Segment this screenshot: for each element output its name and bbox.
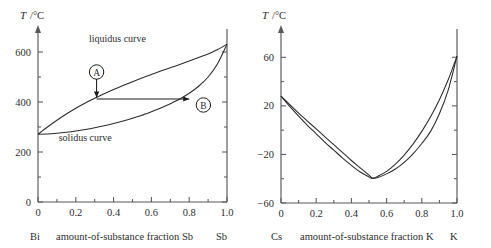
r-xtick-label: 0.8 (415, 208, 428, 219)
left-x-axis-title: amount-of-substance fraction Sb (56, 231, 193, 242)
r-ytick-label: −60 (258, 198, 274, 209)
left-liquidus-curve (38, 44, 227, 134)
left-axis-tick-labels: 00.20.40.60.81.00200400600 (15, 47, 233, 218)
r-ytick-label: 60 (264, 52, 275, 63)
left-solidus-curve-label: solidus curve (59, 132, 113, 143)
annotation-arrowhead (183, 96, 189, 101)
left-y-axis-arrowhead (35, 25, 41, 33)
right-x-axis-title: amount-of-substance fraction K (300, 231, 434, 242)
r-xtick-label: 0.2 (310, 208, 323, 219)
panel-bi-sb: T /°C 00.20.40.60.81.00200400600 liquidu… (15, 9, 233, 242)
l-xtick-label: 0.8 (183, 207, 196, 218)
right-y-axis-arrowhead (278, 25, 284, 33)
l-ytick-label: 400 (15, 97, 31, 108)
annotation-a: A (89, 65, 103, 98)
l-xtick-label: 0.6 (145, 207, 158, 218)
left-y-axis-unit: /°C (30, 10, 44, 21)
panel-cs-k: T /°C 00.20.40.60.81.0−60−202060 Cs amou… (258, 9, 464, 242)
l-xtick-label: 1.0 (220, 207, 233, 218)
right-y-axis-symbol: T (262, 9, 269, 21)
left-axis-ticks (38, 52, 227, 202)
l-xtick-label: 0.4 (107, 207, 121, 218)
r-xtick-label: 0.4 (345, 208, 359, 219)
r-xtick-label: 0.6 (380, 208, 393, 219)
annotation-label: B (200, 101, 206, 111)
right-x-left-component-label: Cs (271, 231, 282, 242)
r-xtick-label: 1.0 (450, 208, 463, 219)
figure-container: T /°C 00.20.40.60.81.00200400600 liquidu… (0, 0, 491, 248)
right-y-axis-unit: /°C (272, 10, 286, 21)
left-x-left-component-label: Bi (30, 231, 40, 242)
left-liquidus-curve-label: liquidus curve (89, 33, 146, 44)
left-x-right-component-label: Sb (216, 231, 227, 242)
l-ytick-label: 0 (26, 197, 31, 208)
right-axis-ticks (281, 57, 457, 203)
l-ytick-label: 200 (15, 147, 31, 158)
left-y-axis-symbol: T (20, 9, 27, 21)
r-xtick-label: 0 (278, 208, 283, 219)
l-xtick-label: 0 (35, 207, 40, 218)
right-axis-tick-labels: 00.20.40.60.81.0−60−202060 (258, 52, 464, 219)
l-ytick-label: 600 (15, 47, 31, 58)
annotation-b: B (97, 96, 211, 112)
l-xtick-label: 0.2 (69, 207, 82, 218)
annotation-label: A (93, 68, 100, 78)
r-ytick-label: 20 (264, 100, 275, 111)
r-ytick-label: −20 (258, 149, 274, 160)
phase-diagram-figure: T /°C 00.20.40.60.81.00200400600 liquidu… (0, 0, 491, 248)
right-x-right-component-label: K (450, 231, 458, 242)
left-annotations: AB (89, 65, 210, 112)
right-liquidus-curve (281, 56, 457, 178)
